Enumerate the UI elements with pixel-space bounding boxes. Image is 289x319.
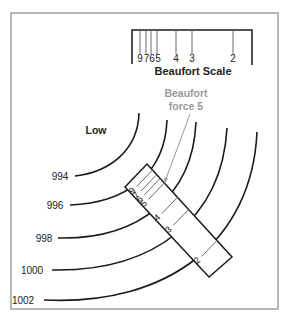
- isobar-label-994: 994: [52, 171, 69, 182]
- isobar-label-996: 996: [47, 200, 64, 211]
- scale-label-3: 3: [189, 53, 195, 64]
- scale-label-4: 4: [173, 53, 179, 64]
- scale-label-9: 9: [137, 53, 143, 64]
- isobars: 994 996 998 1000 1002: [12, 113, 257, 306]
- isobar-994: [75, 113, 139, 176]
- scale-label-2: 2: [230, 53, 236, 64]
- callout-line-1: Beaufort: [164, 87, 208, 99]
- isobar-label-1000: 1000: [21, 265, 44, 276]
- isobar-label-1002: 1002: [12, 295, 35, 306]
- beaufort-diagram: 9 7 6 5 4 3 2 Beaufort Scale Beaufort fo…: [0, 0, 289, 319]
- callout-arrowhead-icon: [164, 177, 168, 182]
- force-5-callout: Beaufort force 5: [164, 87, 208, 112]
- callout-pointer-line: [165, 114, 191, 183]
- beaufort-scale-ruler: 9 7 6 5 4 3 2 Beaufort Scale: [132, 30, 252, 77]
- scale-label-5: 5: [155, 53, 161, 64]
- low-pressure-label: Low: [86, 124, 108, 136]
- isobar-1002: [44, 132, 257, 300]
- scale-title: Beaufort Scale: [154, 65, 231, 77]
- isobar-label-998: 998: [36, 233, 53, 244]
- callout-line-2: force 5: [169, 100, 204, 112]
